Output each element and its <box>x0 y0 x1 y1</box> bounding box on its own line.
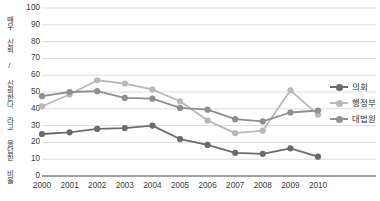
data-point <box>232 130 238 136</box>
data-point <box>177 98 183 104</box>
legend-item-의회[interactable]: 의회 <box>330 79 376 95</box>
data-point <box>39 131 45 137</box>
legend-item-행정부[interactable]: 행정부 <box>330 95 376 111</box>
series-의회 <box>39 123 321 160</box>
chart-legend: 의회행정부대법원 <box>330 79 376 127</box>
plot-area <box>0 0 380 201</box>
data-point <box>315 107 321 113</box>
data-point <box>260 128 266 134</box>
legend-item-대법원[interactable]: 대법원 <box>330 111 376 127</box>
data-point <box>177 136 183 142</box>
data-point <box>149 86 155 92</box>
data-point <box>260 118 266 124</box>
data-point <box>205 142 211 148</box>
data-point <box>149 96 155 102</box>
data-point <box>67 89 73 95</box>
data-point <box>94 126 100 132</box>
data-point <box>287 87 293 93</box>
data-point <box>94 77 100 83</box>
data-point <box>149 123 155 129</box>
x-axis-tick-label: 2010 <box>301 181 335 190</box>
data-point <box>205 117 211 123</box>
legend-marker-icon <box>330 82 348 92</box>
data-point <box>232 150 238 156</box>
data-point <box>122 95 128 101</box>
legend-marker-icon <box>330 98 348 108</box>
data-point <box>67 129 73 135</box>
legend-label: 의회 <box>352 82 368 92</box>
data-point <box>122 81 128 87</box>
legend-marker-icon <box>330 114 348 124</box>
legend-label: 행정부 <box>352 98 376 108</box>
data-point <box>315 154 321 160</box>
data-point <box>205 107 211 113</box>
data-point <box>287 145 293 151</box>
data-point <box>287 109 293 115</box>
data-point <box>39 103 45 109</box>
legend-label: 대법원 <box>352 114 376 124</box>
data-point <box>177 105 183 111</box>
data-point <box>122 125 128 131</box>
data-point <box>260 151 266 157</box>
data-point <box>39 93 45 99</box>
data-point <box>232 116 238 122</box>
line-chart: 매우 신뢰 / 신뢰한다 라고 응답한 비율 01020304050607080… <box>0 0 380 201</box>
data-point <box>94 88 100 94</box>
